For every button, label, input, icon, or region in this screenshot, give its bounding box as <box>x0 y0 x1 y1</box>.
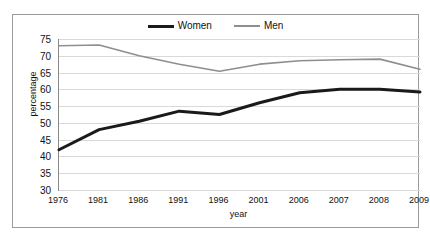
y-axis-tick: 45 <box>40 134 51 145</box>
x-axis-tick: 1996 <box>208 195 228 205</box>
y-axis-tick: 50 <box>40 117 51 128</box>
y-axis-tick: 55 <box>40 101 51 112</box>
y-axis-tick: 65 <box>40 67 51 78</box>
x-axis-title: year <box>58 209 419 219</box>
x-axis-tick-labels: 1976198119861991199620012006200720082009 <box>58 195 419 209</box>
series-line-men <box>59 45 420 71</box>
y-axis-tick: 35 <box>40 168 51 179</box>
x-axis-tick: 2006 <box>289 195 309 205</box>
x-axis-tick: 2008 <box>369 195 389 205</box>
plot-area <box>58 39 420 191</box>
y-axis-tick: 40 <box>40 151 51 162</box>
series-line-women <box>59 89 420 149</box>
x-axis-tick: 2001 <box>249 195 269 205</box>
y-axis-tick: 70 <box>40 50 51 61</box>
series-lines <box>59 39 420 190</box>
y-axis-tick: 75 <box>40 34 51 45</box>
legend-item-men: Men <box>234 21 283 31</box>
x-axis-tick: 2009 <box>409 195 429 205</box>
y-axis-tick: 30 <box>40 185 51 196</box>
x-axis-tick: 1986 <box>128 195 148 205</box>
x-axis-tick: 2007 <box>329 195 349 205</box>
legend-line-women-icon <box>148 25 174 28</box>
y-axis-tick-labels: 75706560555045403530 <box>13 39 55 190</box>
chart-legend: Women Men <box>13 21 418 31</box>
legend-label-men: Men <box>264 21 283 31</box>
x-axis-tick: 1981 <box>88 195 108 205</box>
gridline <box>59 190 420 191</box>
legend-label-women: Women <box>178 21 212 31</box>
legend-line-men-icon <box>234 25 260 27</box>
x-axis-tick: 1991 <box>168 195 188 205</box>
x-axis-tick: 1976 <box>48 195 68 205</box>
chart-container: Women Men percentage 7570656055504540353… <box>12 14 419 228</box>
legend-item-women: Women <box>148 21 212 31</box>
y-axis-tick: 60 <box>40 84 51 95</box>
